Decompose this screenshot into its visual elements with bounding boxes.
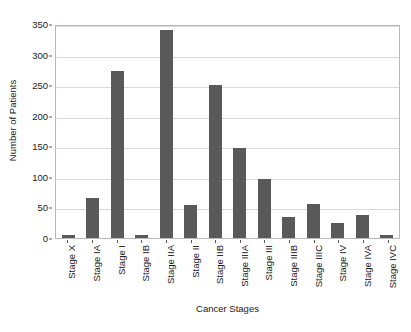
bar-slot (228, 26, 253, 238)
bar[interactable] (356, 215, 369, 238)
x-tick-mark (191, 240, 192, 243)
x-tick-label: Stage IVA (363, 245, 373, 287)
x-tick-mark (166, 240, 167, 243)
bar-slot (277, 26, 302, 238)
y-tick-mark (49, 147, 52, 148)
x-tick-slot: Stage IIA (154, 240, 179, 302)
x-tick-slot: Stage I (104, 240, 129, 302)
x-tick-slot: Stage II (178, 240, 203, 302)
x-axis-title: Cancer Stages (55, 303, 400, 314)
bar-chart-figure: Number of Patients 050100150200250300350… (0, 0, 411, 332)
y-tick-mark (49, 25, 52, 26)
x-axis-tick-labels: Stage XStage IAStage IStage IBStage IIAS… (55, 240, 400, 302)
y-tick-mark (49, 55, 52, 56)
bar[interactable] (62, 235, 75, 238)
bar-slot (81, 26, 106, 238)
bar-slot (203, 26, 228, 238)
x-tick-mark (117, 240, 118, 243)
y-tick-mark (49, 208, 52, 209)
bar[interactable] (258, 179, 271, 238)
x-tick-slot: Stage III (252, 240, 277, 302)
bar[interactable] (135, 235, 148, 238)
bar[interactable] (111, 71, 124, 238)
bar[interactable] (160, 30, 173, 238)
y-tick-label: 150 (32, 143, 48, 153)
bar-slot (179, 26, 204, 238)
x-tick-slot: Stage IIB (203, 240, 228, 302)
x-tick-mark (141, 240, 142, 243)
x-tick-mark (289, 240, 290, 243)
x-tick-mark (92, 240, 93, 243)
x-tick-slot: Stage X (55, 240, 80, 302)
bar[interactable] (233, 148, 246, 238)
y-axis-title: Number of Patients (2, 0, 24, 240)
y-tick-label: 250 (32, 81, 48, 91)
x-tick-slot: Stage IV (326, 240, 351, 302)
x-tick-label: Stage II (191, 245, 201, 278)
x-tick-mark (67, 240, 68, 243)
bar[interactable] (380, 235, 393, 238)
bar-slot (130, 26, 155, 238)
bar-slot (350, 26, 375, 238)
x-tick-label: Stage IVC (388, 245, 398, 288)
y-tick-mark (49, 116, 52, 117)
bar-slot (375, 26, 400, 238)
x-tick-label: Stage IA (92, 245, 102, 281)
x-tick-label: Stage IIIA (240, 245, 250, 287)
x-tick-slot: Stage IA (80, 240, 105, 302)
x-tick-slot: Stage IIIA (227, 240, 252, 302)
x-tick-label: Stage IIIC (314, 245, 324, 287)
y-tick-label: 100 (32, 173, 48, 183)
bar-slot (154, 26, 179, 238)
x-tick-label: Stage IB (141, 245, 151, 281)
bar[interactable] (86, 198, 99, 238)
y-tick-label: 350 (32, 20, 48, 30)
x-tick-slot: Stage IVA (351, 240, 376, 302)
y-tick-mark (49, 239, 52, 240)
x-tick-slot: Stage IVC (375, 240, 400, 302)
x-tick-label: Stage X (67, 245, 77, 279)
y-tick-label: 200 (32, 112, 48, 122)
y-tick-label: 50 (37, 204, 48, 214)
bar-slot (105, 26, 130, 238)
plot-area (55, 25, 400, 239)
x-tick-mark (264, 240, 265, 243)
x-tick-mark (338, 240, 339, 243)
x-tick-label: Stage IV (338, 245, 348, 281)
y-tick-mark (49, 177, 52, 178)
y-axis-title-text: Number of Patients (8, 79, 19, 160)
x-tick-mark (215, 240, 216, 243)
bar-slot (301, 26, 326, 238)
x-tick-label: Stage IIB (215, 245, 225, 284)
bar-slot (56, 26, 81, 238)
y-axis-tick-labels: 050100150200250300350 (22, 25, 52, 239)
x-tick-mark (363, 240, 364, 243)
x-tick-label: Stage IIIB (289, 245, 299, 287)
x-tick-label: Stage III (264, 245, 274, 280)
x-tick-label: Stage I (117, 245, 127, 275)
bar[interactable] (282, 217, 295, 238)
bar[interactable] (307, 204, 320, 238)
bar[interactable] (184, 205, 197, 238)
bar-series (56, 26, 399, 238)
bar-slot (252, 26, 277, 238)
x-tick-slot: Stage IB (129, 240, 154, 302)
y-tick-label: 300 (32, 51, 48, 61)
x-tick-label: Stage IIA (166, 245, 176, 284)
bar[interactable] (331, 223, 344, 238)
x-tick-slot: Stage IIIB (277, 240, 302, 302)
x-tick-mark (314, 240, 315, 243)
bar[interactable] (209, 85, 222, 238)
x-tick-mark (388, 240, 389, 243)
y-tick-mark (49, 86, 52, 87)
x-tick-slot: Stage IIIC (301, 240, 326, 302)
bar-slot (326, 26, 351, 238)
y-tick-label: 0 (43, 234, 48, 244)
x-tick-mark (240, 240, 241, 243)
